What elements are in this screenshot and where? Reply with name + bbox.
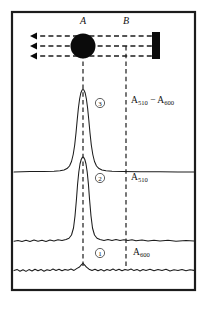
- trace-marker-3-label: 3: [98, 100, 102, 108]
- position-label-a: A: [79, 15, 87, 26]
- figure-container: 3 2 1 A B A510 − A600 A510 A600: [0, 0, 212, 312]
- figure-frame: [12, 12, 195, 290]
- position-label-b: B: [123, 15, 129, 26]
- formula-a510-sub: 510: [138, 176, 149, 183]
- trace-marker-1-label: 1: [98, 250, 102, 258]
- formula-sub-600: 600: [164, 99, 175, 106]
- formula-minus: −: [148, 95, 158, 105]
- formula-a600-sub: 600: [140, 251, 151, 258]
- scattering-particle-icon: [71, 34, 96, 59]
- trace-marker-2-label: 2: [98, 175, 102, 183]
- absorbance-schematic-figure: 3 2 1 A B A510 − A600 A510 A600: [0, 0, 212, 312]
- detector-bar-icon: [152, 32, 160, 59]
